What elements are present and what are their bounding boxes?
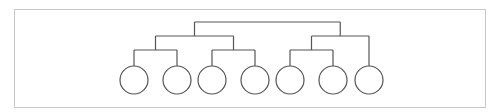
tree-diagram	[0, 0, 500, 112]
leaf-node-7	[355, 66, 383, 94]
leaf-node-1	[120, 66, 148, 94]
leaf-node-5	[276, 66, 304, 94]
leaf-node-4	[241, 66, 269, 94]
leaf-node-2	[163, 66, 191, 94]
leaf-node-6	[319, 66, 347, 94]
leaf-node-3	[198, 66, 226, 94]
